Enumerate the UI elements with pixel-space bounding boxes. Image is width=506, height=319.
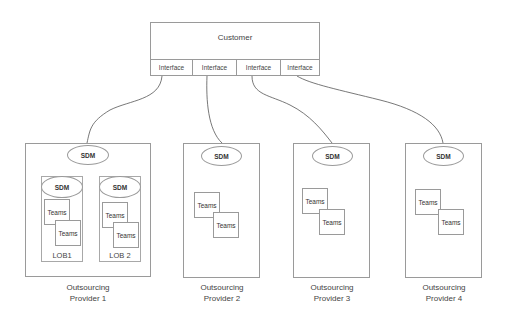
lob-1-sdm: SDM: [41, 176, 83, 198]
connector-interface-2-provider-2: [207, 76, 222, 143]
provider-1-label: Outsourcing Provider 1: [25, 282, 151, 304]
connector-interface-1-provider-1: [87, 76, 162, 143]
provider-2-label: Outsourcing Provider 2: [175, 282, 269, 304]
provider-3-label-line2: Provider 3: [285, 293, 379, 304]
provider-1-label-line2: Provider 1: [25, 293, 151, 304]
provider-1-sdm: SDM: [67, 145, 109, 165]
provider-3-sdm: SDM: [312, 146, 353, 166]
interface-4: Interface: [280, 59, 320, 76]
lob-2-team-2: Teams: [113, 222, 139, 248]
provider-3-label-line1: Outsourcing: [285, 282, 379, 293]
interface-3: Interface: [236, 59, 281, 76]
lob-2-sdm: SDM: [99, 176, 141, 198]
interface-1: Interface: [150, 59, 193, 76]
provider-4-sdm: SDM: [423, 146, 464, 166]
provider-1-label-line1: Outsourcing: [25, 282, 151, 293]
connector-interface-4-provider-4: [297, 76, 443, 143]
lob-2-label: LOB 2: [99, 251, 141, 260]
connector-interface-3-provider-3: [252, 76, 332, 143]
lob-1-team-2: Teams: [55, 220, 81, 246]
provider-4-label-line1: Outsourcing: [397, 282, 491, 293]
provider-4-team-2: Teams: [438, 209, 464, 235]
customer-label: Customer: [150, 33, 320, 42]
provider-2-sdm: SDM: [201, 146, 242, 166]
provider-2-label-line1: Outsourcing: [175, 282, 269, 293]
provider-3-team-2: Teams: [319, 209, 345, 235]
interface-2: Interface: [192, 59, 237, 76]
provider-3-label: Outsourcing Provider 3: [285, 282, 379, 304]
lob-1-label: LOB1: [41, 251, 83, 260]
provider-2-label-line2: Provider 2: [175, 293, 269, 304]
provider-2-team-2: Teams: [213, 212, 239, 238]
provider-4-label: Outsourcing Provider 4: [397, 282, 491, 304]
provider-4-label-line2: Provider 4: [397, 293, 491, 304]
